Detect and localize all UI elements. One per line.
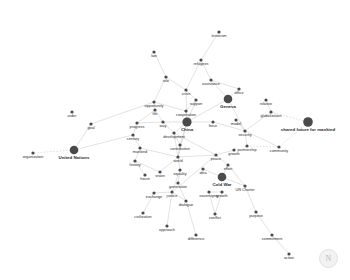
- node-dot[interactable]: [201, 167, 204, 170]
- graph-node[interactable]: mankind: [133, 146, 147, 154]
- graph-node[interactable]: order: [68, 110, 78, 118]
- graph-node[interactable]: refugees: [194, 58, 209, 66]
- graph-node[interactable]: contribution: [170, 143, 190, 151]
- node-dot[interactable]: [152, 191, 155, 194]
- node-dot[interactable]: [138, 146, 141, 149]
- node-dot[interactable]: [213, 212, 216, 215]
- node-dot[interactable]: [31, 151, 34, 154]
- node-dot[interactable]: [178, 143, 181, 146]
- node-dot[interactable]: [176, 181, 179, 184]
- node-dot[interactable]: [270, 233, 273, 236]
- graph-node[interactable]: century: [127, 133, 140, 141]
- graph-node[interactable]: support: [190, 98, 204, 106]
- graph-node[interactable]: law: [151, 50, 157, 58]
- node-dot[interactable]: [207, 190, 210, 193]
- node-dot[interactable]: [232, 148, 235, 151]
- graph-node[interactable]: security: [238, 129, 251, 137]
- graph-node[interactable]: office: [234, 87, 243, 95]
- graph-node[interactable]: opportunity: [145, 100, 164, 108]
- node-dot[interactable]: [133, 159, 136, 162]
- graph-node[interactable]: history: [129, 159, 140, 167]
- graph-node[interactable]: commitment: [262, 233, 284, 241]
- node-dot[interactable]: [135, 121, 138, 124]
- node-dot[interactable]: [170, 190, 173, 193]
- node-dot[interactable]: [264, 98, 267, 101]
- node-dot[interactable]: [143, 173, 146, 176]
- node-dot[interactable]: [199, 58, 202, 61]
- graph-node[interactable]: life: [153, 108, 158, 116]
- node-dot[interactable]: [70, 110, 73, 113]
- node-dot[interactable]: [184, 109, 187, 112]
- node-dot[interactable]: [245, 144, 248, 147]
- node-dot[interactable]: [176, 155, 179, 158]
- node-dot[interactable]: [172, 131, 175, 134]
- graph-node[interactable]: effort: [224, 163, 234, 171]
- graph-node[interactable]: conflict: [209, 212, 222, 220]
- node-dot[interactable]: [152, 50, 155, 53]
- graph-node[interactable]: UN Charter: [235, 184, 255, 192]
- graph-node[interactable]: crisis: [182, 88, 191, 96]
- graph-node[interactable]: partnership: [238, 144, 257, 152]
- node-dot[interactable]: [158, 170, 161, 173]
- graph-node[interactable]: model: [231, 118, 241, 126]
- node-dot[interactable]: [153, 108, 156, 111]
- graph-node[interactable]: purpose: [249, 210, 263, 218]
- node-dot[interactable]: [243, 129, 246, 132]
- graph-node[interactable]: organization: [23, 151, 44, 159]
- graph-node[interactable]: shared future for mankind: [281, 117, 336, 132]
- node-dot[interactable]: [70, 146, 79, 155]
- node-dot[interactable]: [194, 233, 197, 236]
- graph-node[interactable]: idea: [199, 167, 207, 175]
- graph-node[interactable]: globalization: [260, 110, 281, 118]
- graph-node[interactable]: civilization: [134, 211, 151, 219]
- node-dot[interactable]: [152, 100, 155, 103]
- graph-node[interactable]: peace: [211, 153, 221, 161]
- node-dot[interactable]: [217, 30, 220, 33]
- node-dot[interactable]: [209, 78, 212, 81]
- node-dot[interactable]: [287, 252, 290, 255]
- node-dot[interactable]: [164, 75, 167, 78]
- node-dot[interactable]: [224, 95, 233, 104]
- graph-node[interactable]: way: [160, 120, 167, 128]
- node-dot[interactable]: [234, 118, 237, 121]
- node-dot[interactable]: [277, 145, 280, 148]
- network-graph[interactable]: terrorismlawrefugeesroleassistancecrisis…: [0, 0, 350, 280]
- node-dot[interactable]: [211, 120, 214, 123]
- graph-node[interactable]: cooperation: [176, 109, 196, 117]
- graph-node[interactable]: goal: [87, 122, 94, 130]
- node-dot[interactable]: [131, 133, 134, 136]
- graph-node[interactable]: generation: [169, 181, 187, 189]
- graph-node[interactable]: vision: [155, 170, 165, 178]
- graph-node[interactable]: justice: [166, 190, 178, 198]
- node-dot[interactable]: [254, 210, 257, 213]
- node-dot[interactable]: [165, 224, 168, 227]
- node-dot[interactable]: [226, 163, 229, 166]
- graph-node[interactable]: United Nations: [59, 146, 91, 160]
- node-dot[interactable]: [184, 88, 187, 91]
- node-dot[interactable]: [269, 110, 272, 113]
- graph-node[interactable]: development: [163, 131, 186, 139]
- node-dot[interactable]: [141, 211, 144, 214]
- node-dot[interactable]: [220, 190, 223, 193]
- graph-node[interactable]: role: [163, 75, 169, 83]
- graph-node[interactable]: growth: [216, 190, 227, 198]
- graph-node[interactable]: dialogue: [179, 199, 193, 207]
- graph-node[interactable]: community: [270, 145, 288, 153]
- graph-node[interactable]: difference: [188, 233, 205, 241]
- graph-node[interactable]: future: [140, 173, 150, 181]
- graph-node[interactable]: action: [284, 252, 294, 260]
- graph-node[interactable]: relative: [260, 98, 272, 106]
- node-dot[interactable]: [303, 117, 313, 127]
- graph-node[interactable]: equality: [173, 168, 186, 176]
- node-dot[interactable]: [178, 168, 181, 171]
- node-dot[interactable]: [243, 184, 246, 187]
- node-dot[interactable]: [237, 87, 240, 90]
- node-dot[interactable]: [218, 173, 227, 182]
- graph-node[interactable]: assistance: [202, 78, 220, 86]
- node-dot[interactable]: [194, 98, 197, 101]
- graph-node[interactable]: approach: [159, 224, 175, 232]
- node-dot[interactable]: [161, 120, 164, 123]
- node-dot[interactable]: [184, 199, 187, 202]
- graph-node[interactable]: terrorism: [212, 30, 227, 38]
- node-dot[interactable]: [89, 122, 92, 125]
